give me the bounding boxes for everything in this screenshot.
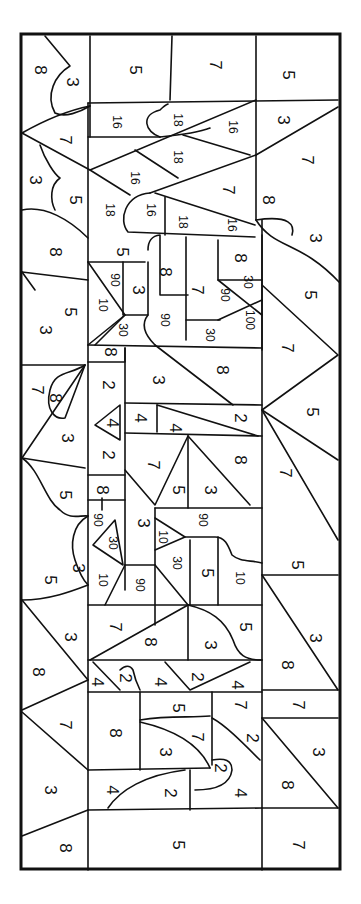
region-number: 3 — [306, 633, 325, 642]
region-number: 2 — [116, 673, 135, 682]
region-number: 90 — [196, 513, 210, 527]
region-number: 3 — [149, 375, 168, 384]
region-number: 8 — [278, 780, 297, 789]
region-number: 100 — [243, 310, 257, 330]
region-number: 4 — [103, 785, 122, 794]
region-number: 7 — [28, 385, 47, 394]
region-number: 8 — [213, 365, 232, 374]
region-number: 5 — [113, 247, 132, 256]
region-number: 3 — [69, 563, 88, 572]
region-number: 7 — [188, 285, 207, 294]
region-number: 16 — [110, 115, 124, 129]
region-number: 5 — [169, 840, 188, 849]
region-number: 8 — [46, 393, 65, 402]
region-number: 3 — [63, 77, 82, 86]
region-number: 8 — [56, 843, 75, 852]
region-number: 8 — [29, 667, 48, 676]
region-number: 5 — [61, 307, 80, 316]
region-number: 90 — [108, 273, 122, 287]
region-number: 5 — [236, 622, 255, 631]
region-number: 4 — [151, 677, 170, 686]
region-number: 5 — [126, 65, 145, 74]
region-number: 3 — [274, 115, 293, 124]
region-number: 10 — [96, 573, 110, 587]
region-number: 4 — [103, 418, 122, 427]
region-number: 30 — [116, 323, 130, 337]
region-number: 5 — [169, 485, 188, 494]
region-number: 5 — [198, 568, 217, 577]
region-number: 8 — [231, 455, 250, 464]
region-number: 3 — [58, 433, 77, 442]
region-number: 3 — [36, 325, 55, 334]
region-number: 5 — [56, 490, 75, 499]
region-number: 5 — [301, 290, 320, 299]
region-number: 16 — [226, 120, 240, 134]
region-number: 18 — [171, 113, 185, 127]
region-number: 8 — [278, 660, 297, 669]
region-number: 7 — [289, 840, 308, 849]
region-number: 3 — [306, 233, 325, 242]
region-number: 8 — [93, 485, 112, 494]
region-number: 7 — [188, 732, 207, 741]
region-number: 5 — [288, 560, 307, 569]
region-number: 3 — [309, 747, 328, 756]
region-number: 3 — [129, 285, 148, 294]
region-number: 3 — [134, 518, 153, 527]
region-number: 7 — [231, 700, 250, 709]
region-number: 7 — [219, 185, 238, 194]
region-number: 18 — [176, 215, 190, 229]
region-number: 7 — [106, 622, 125, 631]
region-number: 7 — [276, 468, 295, 477]
region-number: 3 — [201, 485, 220, 494]
region-number: 16 — [128, 171, 142, 185]
region-number: 90 — [158, 313, 172, 327]
region-number: 18 — [103, 203, 117, 217]
region-number: 2 — [99, 450, 118, 459]
region-number: 4 — [231, 788, 250, 797]
region-number: 16 — [144, 203, 158, 217]
region-number: 8 — [156, 267, 175, 276]
region-number: 2 — [243, 733, 262, 742]
region-number: 7 — [144, 460, 163, 469]
region-number: 30 — [170, 556, 184, 570]
region-number: 7 — [298, 155, 317, 164]
region-number: 7 — [278, 343, 297, 352]
region-number: 8 — [231, 253, 250, 262]
region-number: 5 — [169, 703, 188, 712]
region-number: 5 — [41, 575, 60, 584]
region-number: 30 — [241, 275, 255, 289]
region-number: 3 — [61, 632, 80, 641]
region-number: 90 — [91, 513, 105, 527]
region-number: 30 — [203, 328, 217, 342]
region-number: 10 — [96, 298, 110, 312]
region-number: 8 — [259, 195, 278, 204]
region-number: 4 — [166, 423, 185, 432]
region-number: 4 — [131, 413, 150, 422]
region-number: 2 — [99, 380, 118, 389]
region-number: 7 — [56, 720, 75, 729]
region-number: 4 — [228, 680, 247, 689]
region-number: 5 — [279, 70, 298, 79]
region-number: 90 — [218, 288, 232, 302]
region-number: 4 — [88, 677, 107, 686]
region-number: 2 — [188, 672, 207, 681]
region-number: 2 — [211, 763, 230, 772]
region-number: 7 — [289, 700, 308, 709]
region-number: 8 — [46, 247, 65, 256]
region-number: 5 — [66, 195, 85, 204]
region-number: 3 — [156, 747, 175, 756]
region-number: 2 — [231, 413, 250, 422]
region-number: 18 — [171, 150, 185, 164]
region-number: 10 — [156, 530, 170, 544]
region-number: 5 — [303, 407, 322, 416]
region-number: 8 — [31, 65, 50, 74]
region-number: 7 — [56, 135, 75, 144]
region-number: 90 — [133, 578, 147, 592]
region-number: 7 — [206, 60, 225, 69]
region-number: 3 — [201, 640, 220, 649]
region-number: 2 — [161, 788, 180, 797]
region-number: 16 — [225, 218, 239, 232]
region-number: 3 — [41, 785, 60, 794]
region-number: 3 — [26, 175, 45, 184]
coloring-page: 8357516181637183167751816181683858890379… — [0, 0, 361, 904]
